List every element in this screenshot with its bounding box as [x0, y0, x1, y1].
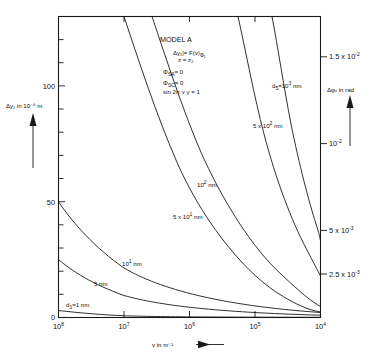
curve-label-50nm: 5 x 101 nm [173, 211, 203, 220]
x-tick-label-3: 105 [249, 321, 260, 331]
y-axis-ticks [59, 40, 66, 318]
annotation-title: MODEL A [160, 35, 192, 44]
y2-tick-label-2: 5 x 10-3 [329, 225, 354, 235]
curve-5nm [59, 260, 321, 316]
curve-label-500nm: 5 x 102 nm [253, 120, 283, 129]
x-axis-label: v in m⁻¹ [152, 341, 173, 348]
x-tick-label-4: 104 [315, 321, 326, 331]
curve-label-5nm: 5 nm [94, 280, 108, 287]
curve-label-d5: d5=103 nm [272, 80, 301, 91]
annotation-phi-sa: ΦSA= 0 [163, 68, 184, 77]
x-tick-label-2: 106 [184, 321, 195, 331]
annotation-condition: z = z₂ [178, 56, 194, 63]
y-tick-label-100: 100 [43, 82, 55, 91]
chart-svg: 0 50 100 1.5 x 10-2 10-2 5 x 10-3 2.5 x … [0, 0, 366, 361]
curve-50nm [124, 17, 321, 313]
x-tick-label-1: 107 [118, 321, 129, 331]
y2-tick-label-3: 2.5 x 10-3 [329, 269, 360, 279]
y-axis-arrow-icon [30, 113, 37, 168]
x-axis-arrow-icon [196, 341, 224, 348]
y-axis-label: Δy₁ in 10⁻⁶ m [6, 102, 42, 109]
y-tick-label-50: 50 [47, 198, 55, 207]
figure-container: 0 50 100 1.5 x 10-2 10-2 5 x 10-3 2.5 x … [0, 0, 366, 361]
x-axis-top-ticks [124, 17, 255, 23]
curve-label-10nm: 101 nm [122, 258, 142, 267]
curve-label-100nm: 102 nm [197, 179, 217, 188]
annotation-block: MODEL A Δy₁|= F(v)Φ₁ z = z₂ ΦSA= 0 ΦSC= … [160, 35, 206, 95]
y2-axis-label: Δφᵥ in rad [327, 86, 354, 93]
y2-axis-arrow-icon [347, 95, 354, 146]
annotation-sin: sin 2π v y = 1 [163, 88, 201, 95]
x-tick-label-0: 108 [53, 321, 64, 331]
curve-label-d1: d1=1 nm [66, 301, 89, 310]
y2-tick-label-0: 1.5 x 10-2 [329, 51, 360, 61]
y2-tick-label-1: 10-2 [329, 138, 342, 148]
y-tick-label-0: 0 [51, 313, 55, 322]
